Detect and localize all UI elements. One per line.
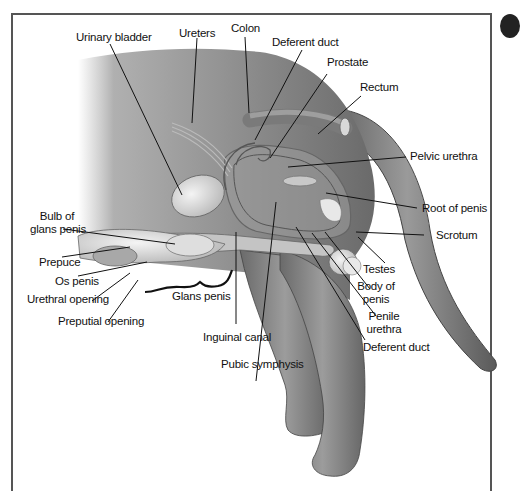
label-deferent-duct-top: Deferent duct <box>272 36 338 49</box>
label-penile-urethra-line2: urethra <box>364 323 404 336</box>
label-scrotum: Scrotum <box>436 229 477 242</box>
label-bulb-line2: glans penis <box>30 223 84 236</box>
label-prepuce: Prepuce <box>39 256 80 269</box>
label-inguinal-canal: Inguinal canal <box>203 331 271 344</box>
label-penile-urethra-line1: Penile <box>364 310 404 323</box>
label-glans-penis: Glans penis <box>172 290 231 303</box>
label-root-of-penis: Root of penis <box>422 202 487 215</box>
label-os-penis: Os penis <box>55 275 99 288</box>
label-bulb-line1: Bulb of <box>30 210 84 223</box>
label-urethral-opening: Urethral opening <box>27 293 109 306</box>
label-rectum: Rectum <box>360 81 398 94</box>
label-testes: Testes <box>363 263 395 276</box>
label-bulb-of-glans-penis: Bulb of glans penis <box>30 210 84 236</box>
label-urinary-bladder: Urinary bladder <box>76 31 152 44</box>
label-penile-urethra: Penile urethra <box>364 310 404 336</box>
label-body-of-penis: Body of penis <box>357 280 395 306</box>
label-deferent-duct-bottom: Deferent duct <box>363 341 429 354</box>
label-body-of-penis-line2: penis <box>357 293 395 306</box>
label-preputial-opening: Preputial opening <box>58 315 144 328</box>
label-prostate: Prostate <box>327 56 368 69</box>
label-pubic-symphysis: Pubic symphysis <box>221 358 304 371</box>
label-ureters: Ureters <box>179 27 215 40</box>
label-colon: Colon <box>231 22 260 35</box>
label-body-of-penis-line1: Body of <box>357 280 395 293</box>
label-pelvic-urethra: Pelvic urethra <box>410 150 478 163</box>
